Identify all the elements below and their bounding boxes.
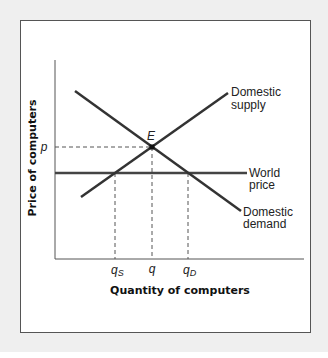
world-price-label: World price bbox=[249, 166, 283, 192]
supply-demand-chart: E p qS q qD Domestic supply World price … bbox=[0, 0, 328, 358]
domestic-demand-label: Domestic demand bbox=[243, 205, 296, 231]
equilibrium-marker bbox=[150, 145, 155, 150]
y-axis-title: Price of computers bbox=[26, 99, 39, 217]
qd-tick-label: qD bbox=[183, 263, 197, 278]
qs-tick-label: qS bbox=[111, 263, 124, 278]
equilibrium-label: E bbox=[147, 129, 156, 143]
price-tick-label: p bbox=[40, 140, 48, 154]
x-axis-title: Quantity of computers bbox=[110, 284, 250, 297]
domestic-demand-line bbox=[75, 91, 241, 211]
q-tick-label: q bbox=[149, 262, 156, 276]
domestic-supply-label: Domestic supply bbox=[231, 85, 284, 112]
